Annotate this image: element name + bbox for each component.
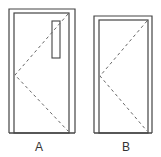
outer-frame xyxy=(94,16,152,133)
door-b xyxy=(94,16,152,133)
door-a xyxy=(9,9,75,133)
swing-indicator xyxy=(100,21,147,131)
door-diagram xyxy=(0,0,161,157)
outer-frame xyxy=(9,9,75,133)
door-b-label: B xyxy=(122,141,130,153)
vision-panel xyxy=(52,21,60,58)
door-leaf xyxy=(14,13,69,133)
door-leaf xyxy=(99,20,148,133)
door-a-label: A xyxy=(35,141,43,153)
